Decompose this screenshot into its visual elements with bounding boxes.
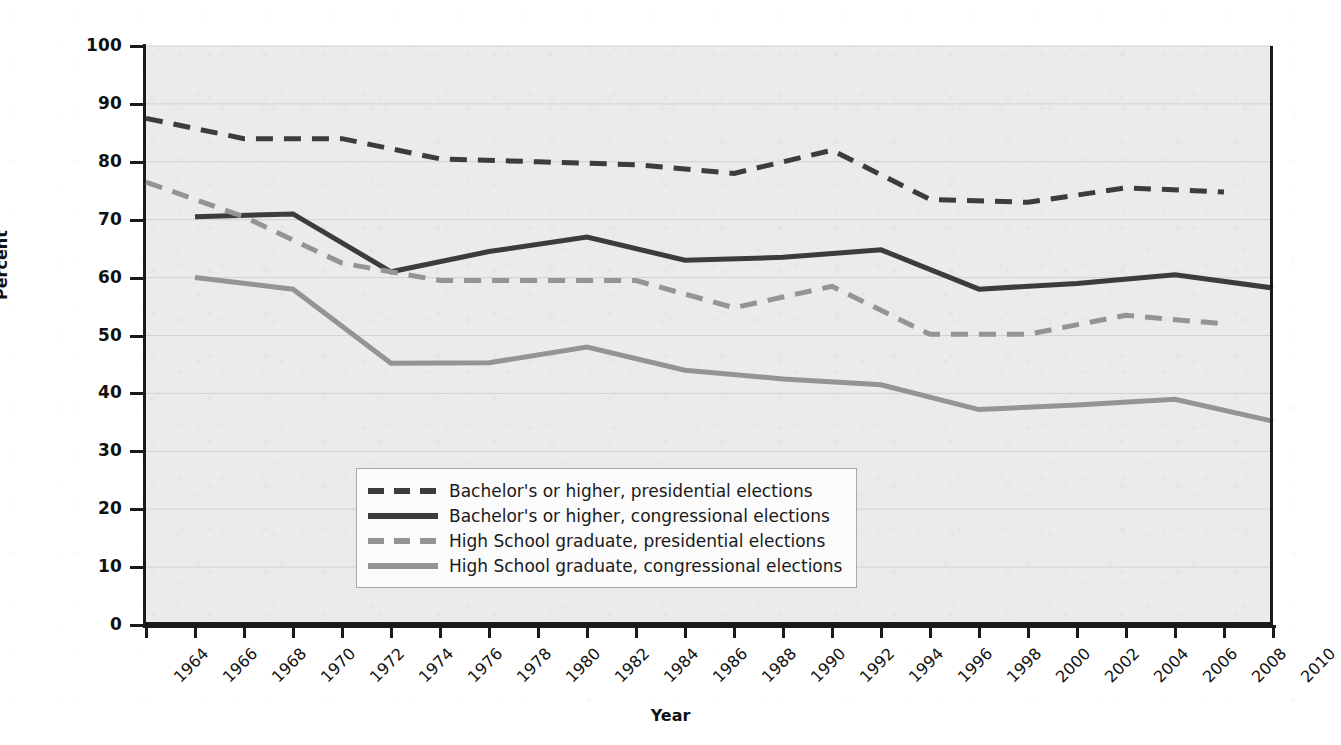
legend-item: Bachelor's or higher, presidential elect… — [367, 478, 842, 503]
y-axis-title: Percent — [0, 230, 11, 300]
y-tick-label: 70 — [62, 209, 122, 229]
legend-label: Bachelor's or higher, presidential elect… — [449, 481, 813, 501]
legend-swatch-icon — [367, 504, 439, 528]
legend-label: Bachelor's or higher, congressional elec… — [449, 506, 830, 526]
x-tick-label: 1968 — [268, 644, 310, 686]
y-tick-label: 0 — [62, 614, 122, 634]
x-tick-label: 1982 — [611, 644, 653, 686]
y-tick-label: 20 — [62, 498, 122, 518]
x-tick-label: 1978 — [513, 644, 555, 686]
y-tick-mark — [130, 335, 143, 338]
y-tick-label: 90 — [62, 93, 122, 113]
x-tick-label: 1964 — [170, 644, 212, 686]
x-tick-label: 1992 — [856, 644, 898, 686]
legend-item: High School graduate, congressional elec… — [367, 553, 842, 578]
x-tick-label: 2010 — [1297, 644, 1339, 686]
x-tick-label: 1986 — [709, 644, 751, 686]
x-tick-label: 2004 — [1150, 644, 1192, 686]
y-tick-mark — [130, 277, 143, 280]
x-tick-label: 1970 — [317, 644, 359, 686]
chart-root: Percent 0102030405060708090100 196419661… — [0, 0, 1341, 745]
y-tick-mark — [130, 450, 143, 453]
chart-legend: Bachelor's or higher, presidential elect… — [356, 468, 857, 588]
x-tick-label: 1974 — [415, 644, 457, 686]
y-tick-label: 10 — [62, 556, 122, 576]
x-tick-label: 1988 — [758, 644, 800, 686]
legend-swatch-icon — [367, 554, 439, 578]
x-tick-label: 1994 — [905, 644, 947, 686]
x-axis-line — [143, 625, 1276, 628]
y-tick-mark — [130, 161, 143, 164]
x-tick-label: 2002 — [1101, 644, 1143, 686]
y-tick-mark — [130, 566, 143, 569]
legend-label: High School graduate, congressional elec… — [449, 556, 842, 576]
y-tick-mark — [130, 219, 143, 222]
y-tick-mark — [130, 103, 143, 106]
x-axis-title: Year — [0, 706, 1341, 725]
x-tick-label: 1976 — [464, 644, 506, 686]
legend-swatch-icon — [367, 529, 439, 553]
x-tick-label: 1996 — [954, 644, 996, 686]
legend-item: High School graduate, presidential elect… — [367, 528, 842, 553]
legend-swatch-icon — [367, 479, 439, 503]
x-tick-label: 1966 — [219, 644, 261, 686]
y-tick-label: 60 — [62, 267, 122, 287]
y-tick-label: 40 — [62, 382, 122, 402]
x-tick-label: 1980 — [562, 644, 604, 686]
y-tick-mark — [130, 392, 143, 395]
x-tick-label: 2008 — [1248, 644, 1290, 686]
x-tick-label: 1972 — [366, 644, 408, 686]
plot-area: Bachelor's or higher, presidential elect… — [146, 46, 1273, 625]
y-tick-label: 50 — [62, 325, 122, 345]
x-tick-label: 1998 — [1003, 644, 1045, 686]
legend-item: Bachelor's or higher, congressional elec… — [367, 503, 842, 528]
x-tick-label: 1984 — [660, 644, 702, 686]
y-tick-label: 30 — [62, 440, 122, 460]
y-tick-label: 80 — [62, 151, 122, 171]
y-tick-mark — [130, 624, 143, 627]
y-tick-label: 100 — [62, 35, 122, 55]
x-tick-label: 2006 — [1199, 644, 1241, 686]
y-tick-mark — [130, 45, 143, 48]
legend-label: High School graduate, presidential elect… — [449, 531, 825, 551]
x-tick-label: 2000 — [1052, 644, 1094, 686]
y-tick-mark — [130, 508, 143, 511]
x-tick-label: 1990 — [807, 644, 849, 686]
